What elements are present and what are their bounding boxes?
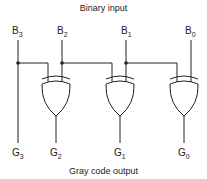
gray-code-output-title: Gray code output [0,166,207,176]
junction-dot [124,61,128,65]
junction-dot [60,61,64,65]
junction-dot [16,61,20,65]
output-label-g0: G0 [178,148,190,162]
output-label-g2: G2 [50,148,62,162]
output-label-g3: G3 [12,148,24,162]
output-label-g1: G1 [114,148,126,162]
gray-code-circuit [0,0,207,179]
xor-gate-2 [106,76,134,143]
xor-gate-1 [42,76,70,143]
wire-b3-to-gate1 [18,63,48,82]
xor-gate-3 [170,76,198,143]
